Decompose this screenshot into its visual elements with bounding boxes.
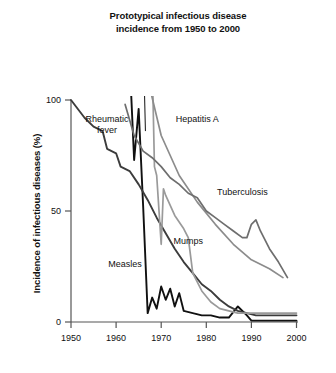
series-label-tuberculosis: Tuberculosis <box>217 187 268 197</box>
plot-area: 050100 195019601970198019902000 MeaslesR… <box>0 0 336 373</box>
leader-line-rheumatic-fever <box>144 73 145 131</box>
x-tick-label: 1980 <box>196 333 216 343</box>
x-tick-label: 1970 <box>151 333 171 343</box>
y-tick-label: 0 <box>56 317 61 327</box>
x-axis-ticks: 195019601970198019902000 <box>61 322 307 343</box>
chart-container: Prototypical infectious disease incidenc… <box>0 0 336 373</box>
x-tick-label: 1960 <box>106 333 126 343</box>
y-tick-label: 100 <box>46 95 61 105</box>
y-axis-ticks: 050100 <box>46 95 71 327</box>
series-label-hepatitis-a: Hepatitis A <box>176 114 219 124</box>
series-line-hepatitis-a <box>143 60 283 278</box>
x-tick-label: 1990 <box>241 333 261 343</box>
series-label-group: MeaslesRheumaticfeverMumpsHepatitis ATub… <box>86 114 269 268</box>
x-tick-label: 1950 <box>61 333 81 343</box>
y-tick-label: 50 <box>51 206 61 216</box>
series-label-measles: Measles <box>108 259 142 269</box>
series-line-measles <box>130 60 297 321</box>
series-label-mumps: Mumps <box>174 236 204 246</box>
x-tick-label: 2000 <box>286 333 306 343</box>
